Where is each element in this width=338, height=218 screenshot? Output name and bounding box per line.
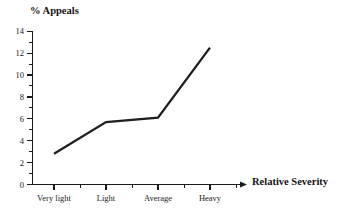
y-tick-label-10: 10 — [16, 70, 25, 80]
y-tick-label-14: 14 — [16, 26, 25, 36]
series-line-appeals — [54, 48, 210, 154]
x-tick-label-average: Average — [144, 193, 172, 203]
y-axis-title: % Appeals — [30, 5, 79, 16]
y-tick-label-0: 0 — [20, 180, 24, 190]
y-tick-label-6: 6 — [20, 114, 24, 124]
y-axis-tick-labels: 0 2 4 6 8 10 12 14 — [16, 26, 25, 189]
x-tick-label-light: Light — [97, 193, 116, 203]
y-tick-label-2: 2 — [20, 158, 24, 168]
line-chart: % Appeals Relative Severity — [0, 0, 338, 218]
x-axis-arrow-icon — [240, 182, 247, 188]
x-axis-tick-labels: Very light Light Average Heavy — [37, 193, 222, 203]
chart-container: % Appeals Relative Severity — [0, 0, 338, 218]
x-tick-label-heavy: Heavy — [199, 193, 222, 203]
y-tick-label-8: 8 — [20, 92, 24, 102]
x-axis-title: Relative Severity — [252, 176, 329, 187]
x-tick-label-very-light: Very light — [37, 193, 71, 203]
axes — [33, 31, 248, 188]
y-tick-label-4: 4 — [20, 136, 25, 146]
y-tick-label-12: 12 — [16, 48, 25, 58]
